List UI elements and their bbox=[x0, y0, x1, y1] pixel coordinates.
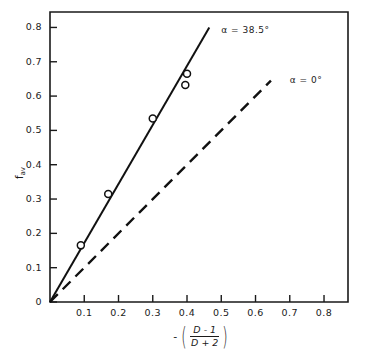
x-axis-title: - ( D - 1 D + 2 ) bbox=[173, 324, 230, 349]
series-line-1 bbox=[50, 81, 271, 302]
y-tick-label-6: 0.6 bbox=[8, 90, 42, 101]
x-axis-title-fraction: D - 1 D + 2 bbox=[190, 325, 219, 348]
x-tick-label-4: 0.5 bbox=[206, 307, 236, 318]
y-axis-ticks bbox=[50, 27, 57, 302]
data-point-marker bbox=[105, 190, 112, 197]
x-tick-label-3: 0.4 bbox=[172, 307, 202, 318]
y-tick-label-2: 0.2 bbox=[8, 227, 42, 238]
chart-figure: 00.10.20.30.40.50.60.70.8 0.10.20.30.40.… bbox=[0, 0, 373, 359]
y-tick-label-1: 0.1 bbox=[8, 262, 42, 273]
x-tick-label-0: 0.1 bbox=[69, 307, 99, 318]
y-tick-label-7: 0.7 bbox=[8, 56, 42, 67]
data-point-markers bbox=[77, 70, 190, 249]
x-tick-label-6: 0.7 bbox=[275, 307, 305, 318]
y-axis-title: fav bbox=[14, 167, 27, 179]
data-point-marker bbox=[184, 70, 191, 77]
x-axis-title-denominator: D + 2 bbox=[191, 337, 218, 348]
x-tick-label-1: 0.2 bbox=[104, 307, 134, 318]
left-paren-glyph: ( bbox=[181, 324, 186, 349]
y-tick-label-5: 0.5 bbox=[8, 124, 42, 135]
x-axis-title-numerator: D - 1 bbox=[193, 324, 216, 335]
data-point-marker bbox=[182, 82, 189, 89]
y-axis-title-base: f bbox=[14, 175, 25, 179]
data-point-marker bbox=[77, 242, 84, 249]
x-axis-title-minus: - bbox=[173, 330, 177, 343]
data-series-group bbox=[50, 27, 271, 302]
y-tick-label-8: 0.8 bbox=[8, 21, 42, 32]
annotation-label-0: α = 38.5° bbox=[221, 25, 269, 35]
y-tick-label-3: 0.3 bbox=[8, 193, 42, 204]
x-tick-label-5: 0.6 bbox=[241, 307, 271, 318]
series-line-0 bbox=[50, 27, 209, 302]
annotation-label-1: α = 0° bbox=[290, 75, 322, 85]
x-tick-label-2: 0.3 bbox=[138, 307, 168, 318]
x-tick-label-7: 0.8 bbox=[309, 307, 339, 318]
plot-area bbox=[0, 0, 373, 359]
x-axis-ticks bbox=[84, 295, 324, 302]
y-tick-label-0: 0 bbox=[8, 296, 42, 307]
right-paren-glyph: ) bbox=[223, 324, 228, 349]
data-point-marker bbox=[149, 115, 156, 122]
y-axis-title-subscript: av bbox=[19, 167, 27, 175]
